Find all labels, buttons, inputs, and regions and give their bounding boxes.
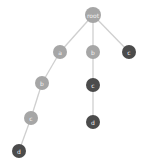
tree-diagram: rootabcbccdd xyxy=(0,0,147,164)
tree-node-c1: c xyxy=(122,45,136,59)
node-label: root xyxy=(87,12,100,19)
node-label: c xyxy=(127,49,130,56)
node-label: c xyxy=(29,115,32,122)
node-layer: rootabcbccdd xyxy=(12,7,136,158)
tree-node-c2: c xyxy=(86,78,100,92)
node-label: b xyxy=(91,49,95,56)
node-label: b xyxy=(40,80,44,87)
node-label: c xyxy=(91,82,94,89)
tree-node-d1: d xyxy=(86,115,100,129)
node-label: d xyxy=(91,119,95,126)
tree-node-c3: c xyxy=(24,111,38,125)
tree-node-d2: d xyxy=(12,144,26,158)
tree-node-root: root xyxy=(85,7,101,23)
tree-node-b1: b xyxy=(86,45,100,59)
tree-node-a: a xyxy=(53,45,67,59)
tree-node-b2: b xyxy=(35,76,49,90)
node-label: d xyxy=(17,148,21,155)
node-label: a xyxy=(58,49,62,56)
